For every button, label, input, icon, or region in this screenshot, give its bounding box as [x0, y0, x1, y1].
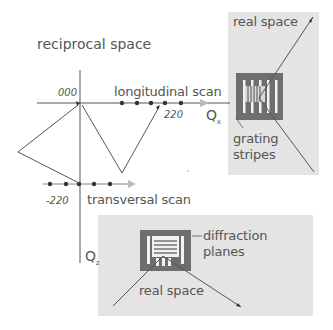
grating-caption-line2: stripes — [233, 147, 275, 162]
longitudinal-scan-label: longitudinal scan — [114, 84, 222, 99]
diffraction-planes-icon — [140, 230, 191, 271]
real-space-top-title: real space — [233, 14, 298, 29]
qz-letter: Q — [85, 248, 96, 264]
reflection-minus-220-label: -220 — [46, 195, 69, 206]
transversal-scan-label: transversal scan — [87, 192, 191, 207]
diffraction-caption-line1: diffraction — [203, 228, 267, 243]
diffraction-caption-line2: planes — [203, 244, 245, 259]
qx-axis-label: Qx — [206, 107, 221, 126]
qz-axis-label: Qz — [85, 248, 99, 267]
grating-caption-line1: grating — [233, 131, 278, 146]
qx-subscript: x — [217, 118, 221, 126]
reciprocal-space-title: reciprocal space — [37, 36, 151, 52]
qx-letter: Q — [206, 107, 217, 123]
reflection-000-label: 000 — [58, 87, 77, 98]
reflection-220-label: 220 — [164, 109, 183, 120]
real-space-bottom-title: real space — [139, 283, 204, 298]
qz-subscript: z — [96, 259, 99, 267]
